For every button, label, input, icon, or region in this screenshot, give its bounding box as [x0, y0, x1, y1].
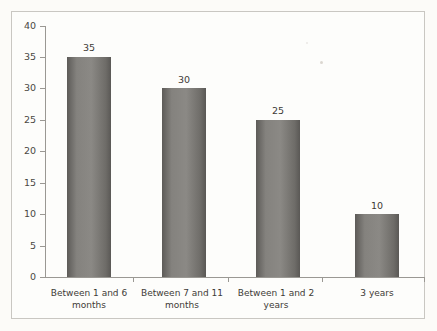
y-tick-label-25-wrap: 25	[0, 115, 45, 125]
bar-chart-plot-area: 0 5 10 15 20 25 30 35 40	[0, 0, 437, 331]
y-tick-label-0-wrap: 0	[0, 272, 45, 282]
bar-between-7-and-11-months[interactable]	[162, 88, 206, 277]
y-axis-line	[45, 26, 46, 278]
x-category-label-3: 3 years	[334, 288, 420, 300]
x-axis-line	[45, 277, 425, 278]
y-tick-label-15-wrap: 15	[0, 178, 45, 188]
bar-value-label-0: 35	[67, 43, 111, 53]
y-tick-label-0: 0	[6, 272, 36, 281]
x-category-label-1-line-1: Between 7 and 11	[137, 288, 227, 300]
x-category-label-2-line-1: Between 1 and 2	[233, 288, 319, 300]
x-category-label-0-line-2: months	[46, 300, 132, 312]
y-tick-label-30: 30	[6, 83, 36, 92]
y-tick-label-5: 5	[6, 241, 36, 250]
y-tick-label-5-wrap: 5	[0, 241, 45, 251]
y-tick-label-40-wrap: 40	[0, 21, 45, 31]
y-tick-label-10: 10	[6, 209, 36, 218]
x-category-label-0: Between 1 and 6 months	[46, 288, 132, 311]
x-tick-mark-1	[133, 277, 134, 282]
chart-page: 0 5 10 15 20 25 30 35 40	[0, 0, 437, 331]
scan-speck-artifact-2	[306, 42, 308, 44]
bar-3-years[interactable]	[355, 214, 399, 277]
y-tick-label-20: 20	[6, 146, 36, 155]
bar-value-label-1: 30	[162, 75, 206, 85]
y-tick-label-30-wrap: 30	[0, 83, 45, 93]
x-category-label-2-line-2: years	[233, 300, 319, 312]
y-tick-label-35-wrap: 35	[0, 52, 45, 62]
x-tick-mark-2	[228, 277, 229, 282]
x-category-label-0-line-1: Between 1 and 6	[46, 288, 132, 300]
x-category-label-2: Between 1 and 2 years	[233, 288, 319, 311]
x-category-label-1: Between 7 and 11 months	[137, 288, 227, 311]
y-tick-label-40: 40	[6, 21, 36, 30]
y-tick-label-25: 25	[6, 115, 36, 124]
scan-speck-artifact-1	[320, 61, 323, 64]
x-category-label-3-line-1: 3 years	[334, 288, 420, 300]
x-category-label-1-line-2: months	[137, 300, 227, 312]
y-tick-label-15: 15	[6, 178, 36, 187]
bar-value-label-2: 25	[256, 106, 300, 116]
x-tick-mark-3	[322, 277, 323, 282]
y-tick-label-10-wrap: 10	[0, 209, 45, 219]
x-tick-mark-4	[424, 277, 425, 282]
y-tick-label-35: 35	[6, 52, 36, 61]
y-tick-label-20-wrap: 20	[0, 146, 45, 156]
bar-between-1-and-6-months[interactable]	[67, 57, 111, 277]
bar-value-label-3: 10	[355, 201, 399, 211]
bar-between-1-and-2-years[interactable]	[256, 120, 300, 277]
